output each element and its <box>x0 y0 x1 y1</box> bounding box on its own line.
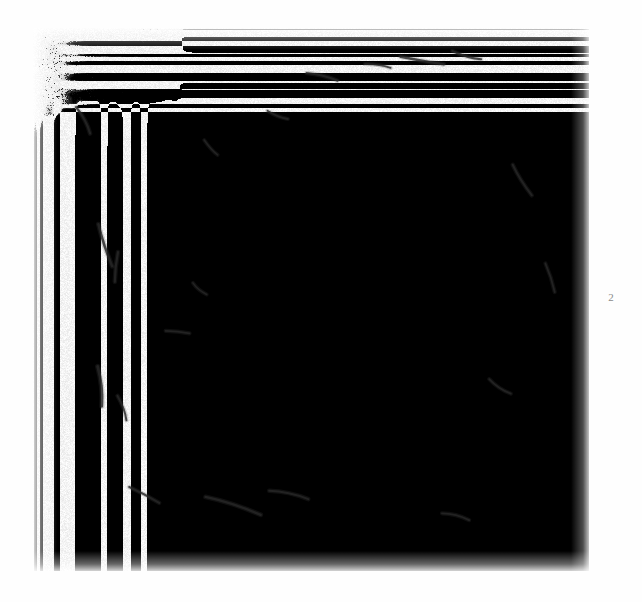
figure-plate <box>33 28 589 571</box>
document-page: 2 <box>0 0 642 602</box>
photomicrograph-image <box>33 28 589 571</box>
figure-number: 2 <box>603 290 619 304</box>
